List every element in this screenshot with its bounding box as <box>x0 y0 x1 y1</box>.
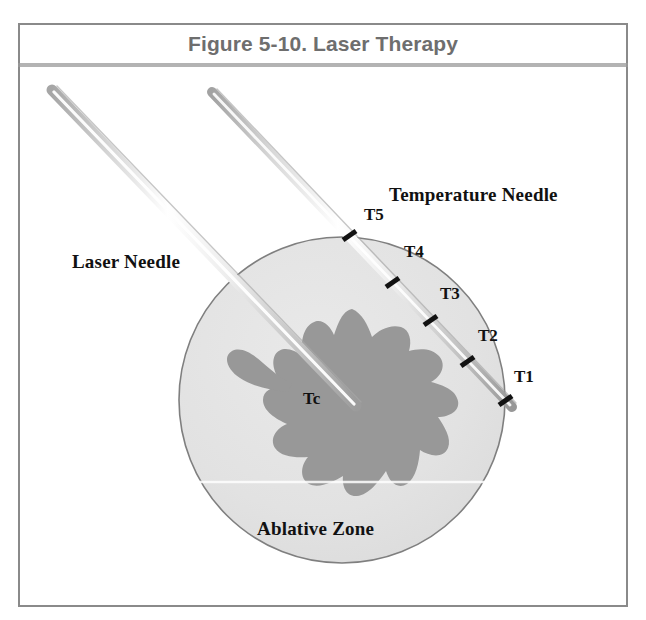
label-sensor-t2: T2 <box>478 327 498 344</box>
figure-caption: Figure 5-10. Laser Therapy <box>188 32 458 56</box>
figure-laser-therapy: Figure 5-10. Laser Therapy <box>0 0 646 620</box>
label-temperature-needle: Temperature Needle <box>389 185 558 204</box>
label-sensor-t5: T5 <box>364 206 384 223</box>
label-ablative-zone: Ablative Zone <box>257 519 374 538</box>
figure-caption-band: Figure 5-10. Laser Therapy <box>18 23 628 64</box>
label-core-temperature: Tc <box>303 390 320 407</box>
label-laser-needle: Laser Needle <box>72 252 180 271</box>
label-sensor-t3: T3 <box>440 285 460 302</box>
label-sensor-t1: T1 <box>514 368 534 385</box>
label-sensor-t4: T4 <box>404 243 424 260</box>
